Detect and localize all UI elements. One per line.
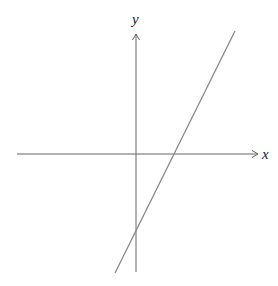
plotted-line bbox=[115, 31, 235, 273]
x-axis-label: x bbox=[261, 146, 269, 162]
y-axis-label: y bbox=[130, 11, 139, 27]
graph-canvas: x y bbox=[0, 0, 278, 286]
